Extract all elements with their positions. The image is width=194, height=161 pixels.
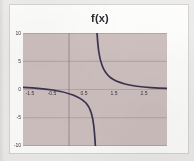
y-tick-label-5: 5 (10, 59, 21, 64)
figure-card: f(x) 10 5 0 (9, 4, 189, 154)
y-tick-label-minus-5: -5 (10, 115, 21, 120)
x-tick-label-1-5: 1.5 (105, 91, 123, 96)
x-tick-label-minus-0-5: -0.5 (43, 91, 61, 96)
curve-right-branch (97, 33, 167, 88)
curve-left-branch (23, 87, 95, 146)
y-tick-label-minus-10: -10 (10, 143, 21, 148)
x-tick-label-2-5: 2.5 (135, 91, 153, 96)
y-tick-label-10: 10 (10, 31, 21, 36)
y-tick-label-0: 0 (10, 87, 21, 92)
x-tick-label-0-5: 0.5 (75, 91, 93, 96)
chart-title: f(x) (10, 12, 190, 24)
plot-area: 10 5 0 -5 -10 -1.5 -0.5 0.5 1.5 2.5 (23, 33, 167, 146)
x-tick-label-minus-1-5: -1.5 (21, 91, 39, 96)
scanned-page: f(x) 10 5 0 (0, 0, 194, 161)
